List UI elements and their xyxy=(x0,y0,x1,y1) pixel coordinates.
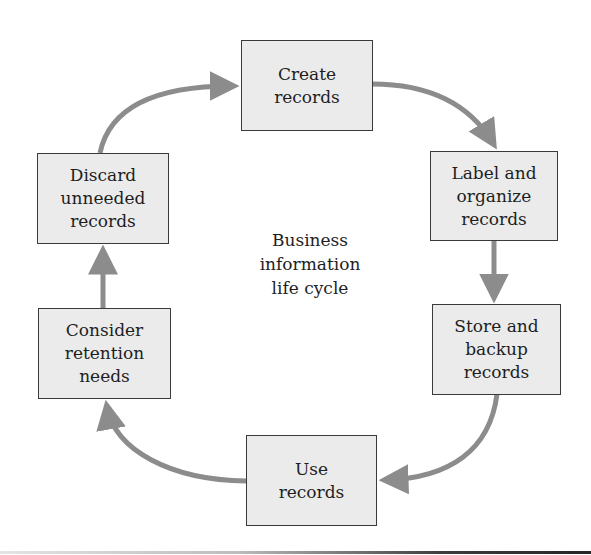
cycle-center-label: Business information life cycle xyxy=(230,228,390,300)
step-store-and-backup-records: Store and backup records xyxy=(432,304,561,395)
step-consider-retention-needs: Consider retention needs xyxy=(38,308,171,399)
arrow-discard-to-create xyxy=(100,86,232,153)
bottom-divider xyxy=(0,551,591,554)
step-create-records: Create records xyxy=(241,40,373,131)
arrow-create-to-label xyxy=(372,84,493,143)
step-discard-unneeded-records: Discard unneeded records xyxy=(37,153,169,244)
life-cycle-diagram: Create records Label and organize record… xyxy=(0,0,591,555)
step-label-and-organize-records: Label and organize records xyxy=(430,151,558,241)
arrow-use-to-consider xyxy=(107,407,246,481)
arrow-store-to-use xyxy=(386,394,497,480)
step-use-records: Use records xyxy=(246,435,377,526)
